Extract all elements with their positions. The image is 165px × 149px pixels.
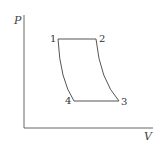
x-axis-label: V [144,130,153,143]
point-label-3: 3 [121,96,127,107]
point-label-2: 2 [99,33,105,44]
pv-diagram: P V 1 2 3 4 [0,0,165,149]
segment-4-1 [58,39,74,101]
segment-2-3 [96,39,119,101]
y-axis-label: P [13,14,22,27]
point-label-4: 4 [65,95,71,106]
point-label-1: 1 [50,33,56,44]
